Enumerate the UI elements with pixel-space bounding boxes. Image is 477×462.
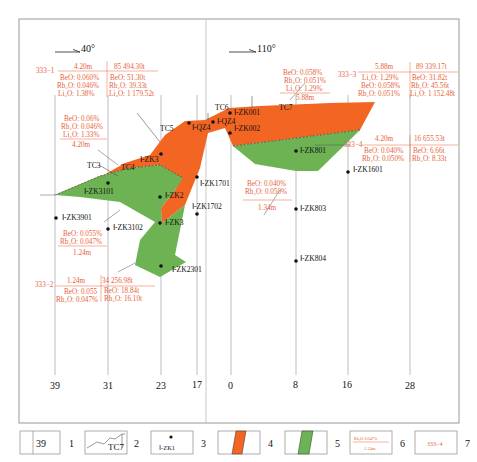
legend-sample: 333−4	[427, 441, 442, 447]
grade-line: BeO: 0.06%	[64, 115, 100, 123]
drillhole-label: Ⅰ-ZK3	[140, 155, 159, 164]
drillhole-label: Ⅰ-QZ4	[192, 123, 211, 132]
trench-label: TC4	[121, 163, 135, 172]
line-number: 31	[103, 380, 113, 391]
drillhole-label: Ⅰ-ZK801	[300, 146, 326, 155]
block-grade: BeO: 0.058%	[361, 82, 400, 90]
block-grade: Li₂O: 1.29%	[362, 74, 398, 82]
block-resource: Li₂O: 1 152.48t	[410, 90, 455, 98]
line-number: 23	[156, 380, 166, 391]
thickness: 4.20m	[72, 141, 91, 149]
drillhole-label: Ⅰ-ZK1701	[200, 179, 230, 188]
drillhole-label: Ⅰ-ZK1601	[353, 165, 383, 174]
line-number: 39	[50, 380, 60, 391]
block-id: 333−4	[344, 141, 363, 149]
drillhole-label: Ⅰ-ZK803	[300, 204, 326, 213]
legend-number: 5	[335, 438, 340, 449]
legend-number: 3	[201, 438, 206, 449]
legend-number: 4	[268, 438, 273, 449]
legend-number: 1	[69, 438, 74, 449]
drillhole-label: Ⅰ-ZK2	[165, 191, 184, 200]
block-resource: BeO: 18.84t	[104, 287, 139, 295]
block-grade: Rb₂O: 0.047%	[56, 296, 98, 304]
drillhole-label: Ⅰ-ZK3102	[113, 223, 143, 232]
line-number: 28	[405, 380, 415, 391]
block-thickness: 5.88m	[375, 63, 394, 71]
drillhole-label: Ⅰ-ZK2301	[172, 265, 202, 274]
block-grade: Li₂O: 1.38%	[58, 90, 94, 98]
block-tonnage: 89 339.17t	[416, 63, 447, 71]
block-thickness: 4.20m	[74, 63, 93, 71]
block-grade: Rb₂O: 0.050%	[362, 155, 404, 163]
block-tonnage: 85 494.30t	[114, 63, 145, 71]
legend-number: 7	[465, 438, 470, 449]
legend-sample: 39	[36, 438, 46, 449]
grade-line: BeO: 0.055%	[63, 230, 102, 238]
grade-line: Rb₂O: 0.050%	[245, 188, 287, 196]
legend-sample: Rb₂O 0.047%	[354, 436, 378, 441]
trench-label: TC6	[215, 103, 229, 112]
block-tonnage: 34 256.98t	[102, 277, 133, 285]
legend-item-drillhole: Ⅰ-ZK1 3	[151, 431, 206, 454]
grade-line: Li₂O: 1.29%	[286, 85, 322, 93]
block-grade: Rb₂O: 0.046%	[57, 82, 99, 90]
line-number: 0	[228, 380, 233, 391]
drillhole-label: Ⅰ-ZK001	[234, 108, 260, 117]
thickness: 1.34m	[258, 204, 277, 212]
legend-item-trench: TC7 2	[85, 431, 139, 454]
legend-item-exploration-line: 39 1	[20, 431, 74, 454]
legend-item-grade-label: Rb₂O 0.047% 1.24m 6	[350, 431, 405, 454]
legend-sample: TC7	[108, 442, 125, 452]
drillhole-label: Ⅰ-ZK3101	[84, 187, 114, 196]
block-id: 333−2	[35, 281, 54, 289]
legend-item-green-ore: 5	[285, 431, 340, 454]
block-grade: BeO: 0.055	[64, 288, 98, 296]
trench-label: TC7	[279, 103, 293, 112]
legend-number: 6	[400, 438, 405, 449]
block-grade: BeO: 0.060%	[60, 74, 99, 82]
block-grade: BeO: 0.040%	[364, 147, 403, 155]
block-resource: Rb₂O: 16.10t	[104, 295, 142, 303]
drillhole-label: Ⅰ-ZK3	[165, 218, 184, 227]
legend-sample: Ⅰ-ZK1	[159, 444, 175, 451]
block-id: 333−1	[36, 67, 55, 75]
drillhole-label: Ⅰ-ZK804	[300, 254, 326, 263]
thickness: 1.24m	[73, 249, 92, 257]
block-tonnage: 16 655.53t	[414, 135, 445, 143]
line-number: 16	[342, 379, 352, 390]
grade-line: Rb₂O: 0.046%	[61, 123, 103, 131]
line-number: 8	[293, 379, 298, 390]
block-resource: Rb₂O: 39.33t	[109, 82, 147, 90]
legend: 39 1 TC7 2 Ⅰ-ZK1 3 4 5	[20, 431, 470, 454]
block-thickness: 4.20m	[375, 135, 394, 143]
line-number: 17	[192, 379, 202, 390]
block-id: 333−3	[338, 71, 357, 79]
block-resource: BeO: 51.30t	[110, 74, 145, 82]
geological-plan-diagram: 40° 110° TC3 TC4 TC5 TC6 TC7 Ⅰ-ZK0	[0, 0, 477, 462]
legend-number: 2	[134, 438, 139, 449]
legend-item-block-id: 333−4 7	[415, 431, 470, 454]
drillhole-label: Ⅰ-ZK3901	[62, 213, 92, 222]
grade-line: Rb₂O: 0.047%	[60, 238, 102, 246]
block-grade: Rb₂O: 0.051%	[358, 90, 400, 98]
block-resource: Li₂O: 1 179.52t	[109, 90, 154, 98]
drillhole-label: Ⅰ-ZK002	[234, 124, 260, 133]
block-thickness: 1.24m	[67, 277, 86, 285]
legend-item-orange-ore: 4	[218, 431, 273, 454]
drillhole-label: Ⅰ-ZK1702	[192, 202, 222, 211]
drillhole-label: Ⅰ-QZ4	[217, 117, 236, 126]
trench-label: TC3	[87, 161, 101, 170]
thickness: 5.88m	[296, 94, 315, 102]
trench-label: TC5	[160, 124, 174, 133]
block-resource: BeO: 31.82t	[412, 74, 447, 82]
grade-line: Rb₂O: 0.051%	[284, 77, 326, 85]
block-resource: Rb₂O: 8.33t	[412, 155, 446, 163]
block-resource: Rb₂O: 45.56t	[411, 82, 449, 90]
direction-label-right: 110°	[257, 43, 276, 54]
grade-line: Li₂O: 1.33%	[63, 131, 99, 139]
legend-sample: 1.24m	[364, 446, 376, 451]
block-resource: BeO: 6.66t	[413, 147, 445, 155]
direction-label-left: 40°	[81, 43, 95, 54]
grade-line: BeO: 0.040%	[247, 180, 286, 188]
grade-line: BeO: 0.058%	[283, 69, 322, 77]
